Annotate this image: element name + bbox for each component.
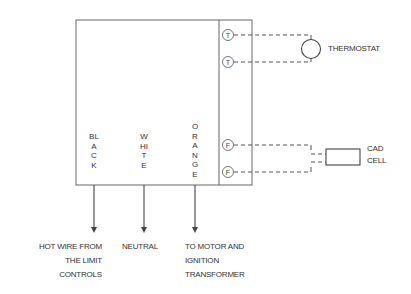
thermostat-symbol (302, 40, 321, 59)
black-destination-line1: HOT WIRE FROM (18, 240, 102, 254)
terminal-t2: T (223, 57, 234, 68)
wiring-diagram: T T F F (0, 0, 411, 294)
white-destination-line1: NEUTRAL (122, 240, 158, 254)
black-destination-line2: THE LIMIT (18, 254, 102, 268)
terminal-f1: F (223, 140, 234, 151)
primary-control-box (76, 20, 252, 185)
orange-destination-label: TO MOTOR AND IGNITION TRANSFORMER (185, 240, 245, 282)
black-destination-line3: CONTROLS (18, 268, 102, 282)
orange-destination-line2: IGNITION (185, 254, 245, 268)
orange-wire (192, 185, 198, 233)
orange-wire-label: ORANGE (190, 122, 200, 179)
svg-text:T: T (226, 59, 231, 66)
white-wire-label: WHITE (139, 132, 149, 170)
black-wire (91, 185, 97, 233)
white-wire (141, 185, 147, 233)
thermostat-wiring (234, 35, 311, 62)
svg-text:F: F (226, 142, 230, 149)
white-destination-label: NEUTRAL (122, 240, 158, 254)
svg-text:F: F (226, 169, 230, 176)
terminal-t1: T (223, 30, 234, 41)
black-destination-label: HOT WIRE FROM THE LIMIT CONTROLS (18, 240, 102, 282)
black-wire-label: BLACK (89, 132, 99, 170)
cad-cell-wiring (234, 145, 326, 172)
cad-cell-label-line2: CELL (367, 155, 386, 167)
terminal-f2: F (223, 167, 234, 178)
cad-cell-symbol (326, 149, 360, 165)
cad-cell-label-line1: CAD (367, 143, 383, 155)
svg-text:T: T (226, 32, 231, 39)
orange-destination-line3: TRANSFORMER (185, 268, 245, 282)
orange-destination-line1: TO MOTOR AND (185, 240, 245, 254)
thermostat-label: THERMOSTAT (328, 42, 380, 56)
